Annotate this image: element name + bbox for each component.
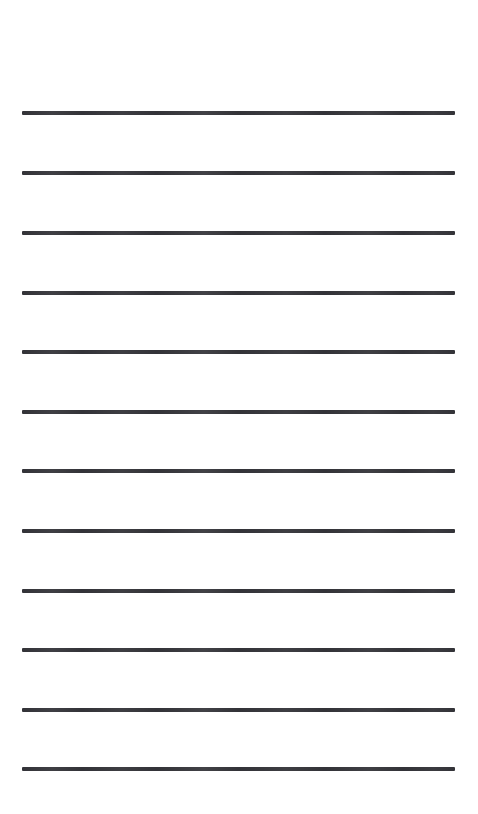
ruled-line-10: [22, 648, 455, 652]
ruled-line-12: [22, 767, 455, 771]
ruled-line-1: [22, 111, 455, 115]
ruled-line-ink: [22, 708, 455, 712]
ruled-line-2: [22, 171, 455, 175]
ruled-line-7: [22, 469, 455, 473]
ruled-line-4: [22, 291, 455, 295]
ruled-line-9: [22, 589, 455, 593]
ruled-line-5: [22, 350, 455, 354]
ruled-line-ink: [22, 410, 455, 414]
ruled-line-8: [22, 529, 455, 533]
ruled-line-ink: [22, 469, 455, 473]
ruled-line-ink: [22, 231, 455, 235]
ruled-line-6: [22, 410, 455, 414]
ruled-line-ink: [22, 648, 455, 652]
ruled-line-ink: [22, 291, 455, 295]
ruled-page-canvas: [0, 0, 478, 814]
ruled-line-ink: [22, 111, 455, 115]
ruled-line-11: [22, 708, 455, 712]
ruled-line-3: [22, 231, 455, 235]
ruled-line-ink: [22, 350, 455, 354]
ruled-line-ink: [22, 529, 455, 533]
ruled-line-ink: [22, 589, 455, 593]
ruled-line-ink: [22, 767, 455, 771]
ruled-line-ink: [22, 171, 455, 175]
